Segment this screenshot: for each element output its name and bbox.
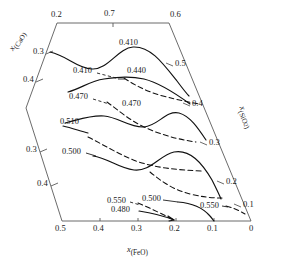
leader-l4-0470 (93, 99, 109, 104)
tick-label-right-04: 0.4 (192, 99, 203, 108)
tick-label-bottom-01: 0.1 (207, 224, 218, 233)
tick-label-bottom-0: 0 (249, 224, 253, 233)
tick-label-leftupper-03: 0.3 (33, 47, 44, 56)
contour-label-c11: 0.550 (200, 202, 219, 210)
contour-c4-0470 (107, 102, 196, 142)
tick-label-top-right: 0.6 (170, 10, 181, 19)
contour-c5-0470 (65, 113, 206, 140)
tick-label-bottom-05: 0.5 (55, 224, 66, 233)
contour-c5b-tail (63, 126, 88, 133)
axis-title-bottom: x(FeO) (127, 246, 148, 257)
contour-label-c10: 0.480 (111, 206, 130, 214)
tick-label-top-left: 0.2 (51, 10, 62, 19)
tick-leftlower-03 (40, 149, 47, 152)
contour-c6-0510 (88, 137, 202, 171)
tick-label-right-01: 0.1 (243, 200, 254, 209)
contour-c7-0500 (93, 152, 221, 199)
tick-label-bottom-04: 0.4 (93, 224, 104, 233)
contour-label-c3: 0.440 (127, 67, 146, 75)
contour-label-c6: 0.510 (60, 118, 79, 126)
contour-label-c1: 0.410 (119, 39, 138, 47)
contour-c1-0410 (50, 47, 189, 96)
contour-label-c7: 0.500 (62, 148, 81, 156)
contour-c10-0480 (139, 211, 174, 220)
tick-right-03 (200, 142, 207, 145)
leader-l7-0500 (86, 153, 96, 156)
leader-l9-0500 (163, 200, 178, 202)
tick-label-leftlower-03: 0.3 (26, 145, 37, 154)
tick-right-01 (234, 204, 241, 207)
phase-diagram-chart: 0.2 0.7 0.6 0.5 0.4 0.3 0.2 0.1 0.3 0.4 … (0, 0, 282, 264)
contour-label-c4: 0.470 (69, 93, 88, 101)
tick-label-top-mid: 0.7 (104, 9, 115, 18)
lower-left-axis-line (26, 108, 62, 221)
contour-c8-0550 (138, 203, 172, 219)
tick-label-leftlower-04: 0.4 (37, 179, 48, 188)
tick-right-05 (166, 63, 173, 66)
tick-leftlower-04 (51, 183, 58, 186)
label-leaders (86, 73, 228, 207)
tick-right-02 (217, 181, 224, 184)
tick-label-right-02: 0.2 (226, 177, 237, 186)
contour-label-c9: 0.500 (142, 195, 161, 203)
upper-left-axis-line (26, 23, 57, 108)
axis-title-bottom-sub: (FeO) (131, 249, 148, 257)
tick-label-bottom-02: 0.2 (169, 224, 180, 233)
tick-label-right-05: 0.5 (175, 59, 186, 68)
tick-label-bottom-03: 0.3 (131, 224, 142, 233)
leader-l2-0410 (97, 73, 116, 78)
tick-label-leftupper-04: 0.4 (23, 75, 34, 84)
tick-leftupper-04 (36, 79, 43, 82)
tick-label-right-03: 0.3 (209, 138, 220, 147)
contour-label-c2: 0.410 (73, 67, 92, 75)
contour-label-c5: 0.470 (122, 100, 141, 108)
